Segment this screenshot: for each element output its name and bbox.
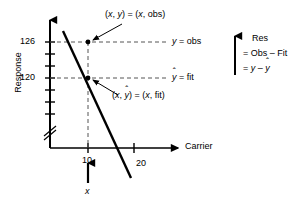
y-tick-label-120: 120: [20, 73, 35, 82]
obs-level-label: y = obs: [172, 37, 201, 46]
fit-callout-fit-word: fit: [155, 90, 162, 100]
legend-line3-minus: –: [255, 63, 265, 73]
fit-callout-end-paren: ): [162, 90, 165, 100]
fitted-regression-line: [63, 31, 131, 178]
callout-close-equals: ) = (: [122, 9, 138, 19]
y-tick-label-126: 126: [20, 37, 35, 46]
fit-level-hat-accent: ˆ: [173, 67, 176, 76]
legend-line3-prefix: =: [243, 63, 251, 73]
callout-end-paren: ): [162, 9, 165, 19]
legend-line2-suffix: Fit: [275, 48, 288, 58]
observed-point-callout-label: (x, y) = (x, obs): [105, 10, 165, 19]
legend-line3-hat-accent: ˆ: [266, 57, 269, 66]
fit-level-label: ˆy = fit: [172, 73, 194, 82]
regression-residual-diagram: Response 126 120 10 20 Carrier (x, y) = …: [0, 0, 295, 206]
fitted-data-point: [86, 76, 91, 81]
y-axis: [44, 20, 56, 148]
observed-data-point: [86, 40, 91, 45]
fit-callout-hat-accent: ˆ: [125, 85, 128, 94]
x-marker-label: x: [85, 187, 90, 196]
legend-y-minus-yhat: = y – ˆy: [243, 63, 270, 74]
x-tick-label-20: 20: [136, 159, 146, 168]
fit-level-equals-fit: = fit: [177, 72, 194, 82]
x-axis: [50, 143, 178, 153]
diagram-canvas: [0, 0, 295, 206]
fitted-point-callout-label: (x, ˆy) = (x, fit): [112, 91, 165, 100]
obs-callout-arrow: [93, 24, 122, 40]
callout-obs-word: obs: [148, 9, 163, 19]
obs-level-equals-obs: = obs: [177, 36, 202, 46]
fit-callout-close-equals: ) = (: [129, 90, 145, 100]
x-axis-label: Carrier: [185, 142, 213, 151]
legend-res-title: Res: [252, 33, 268, 44]
x-tick-label-10: 10: [82, 156, 92, 165]
